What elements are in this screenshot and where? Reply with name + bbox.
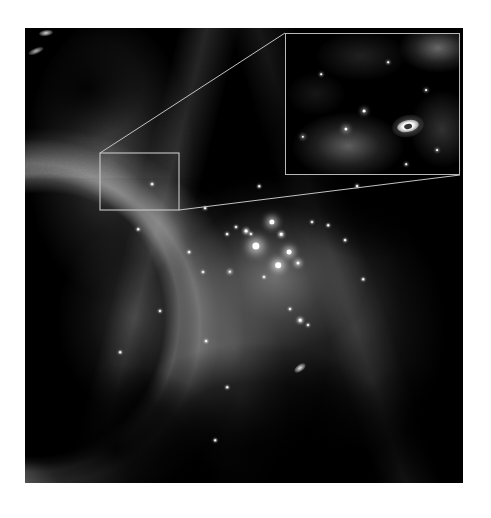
star <box>214 439 216 441</box>
star <box>344 239 346 241</box>
inset-star-layer <box>286 34 459 174</box>
inset-star <box>363 110 366 113</box>
star <box>226 386 228 388</box>
star <box>307 324 309 326</box>
knot-top-left-a <box>39 29 54 37</box>
star <box>226 233 228 235</box>
star <box>269 219 274 224</box>
star <box>188 251 190 253</box>
inset-star <box>436 149 438 151</box>
star <box>252 242 259 249</box>
star <box>137 228 139 230</box>
knot-south-bright <box>293 361 308 374</box>
star <box>229 271 231 273</box>
star <box>280 233 283 236</box>
star <box>202 271 204 273</box>
star <box>275 262 281 268</box>
star <box>263 276 265 278</box>
star <box>235 226 237 228</box>
star <box>258 185 260 187</box>
inset-star <box>344 127 347 130</box>
proplyd-object <box>396 118 420 134</box>
figure-page <box>0 0 491 518</box>
inset-star <box>425 89 427 91</box>
star <box>297 262 300 265</box>
nebula-noise-texture <box>25 28 325 178</box>
star <box>250 233 252 235</box>
star <box>151 183 153 185</box>
star <box>287 250 292 255</box>
knot-top-left-b <box>27 45 44 57</box>
inset-star <box>387 61 389 63</box>
star <box>311 221 313 223</box>
star <box>245 230 248 233</box>
star <box>204 207 206 209</box>
star <box>159 310 161 312</box>
star <box>205 340 207 342</box>
star <box>356 185 358 187</box>
star <box>119 351 121 353</box>
inset-star <box>302 136 304 138</box>
magnified-inset-panel[interactable] <box>285 33 460 175</box>
star <box>362 278 364 280</box>
star <box>327 224 329 226</box>
inset-star <box>320 73 322 75</box>
star <box>289 308 291 310</box>
inset-star <box>405 163 407 165</box>
star <box>299 319 302 322</box>
